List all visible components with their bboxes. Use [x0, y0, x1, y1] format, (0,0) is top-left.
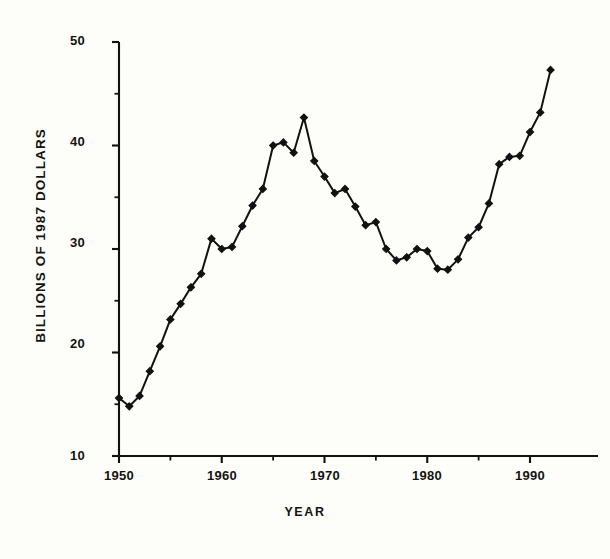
data-point-1961: [229, 243, 236, 250]
data-series-line: [119, 70, 551, 406]
data-point-1968: [300, 114, 307, 121]
data-point-1990: [527, 129, 534, 136]
data-point-1962: [239, 223, 246, 230]
data-point-1953: [146, 368, 153, 375]
data-point-1965: [270, 142, 277, 149]
data-point-1991: [537, 109, 544, 116]
data-point-1989: [516, 152, 523, 159]
chart-figure: BILLIONS OF 1987 DOLLARS YEAR 50 40 30 2…: [0, 0, 610, 559]
data-point-1975: [372, 219, 379, 226]
data-point-1986: [485, 200, 492, 207]
plot-area: [0, 0, 610, 559]
data-point-1992: [547, 66, 554, 73]
data-point-1954: [157, 343, 164, 350]
